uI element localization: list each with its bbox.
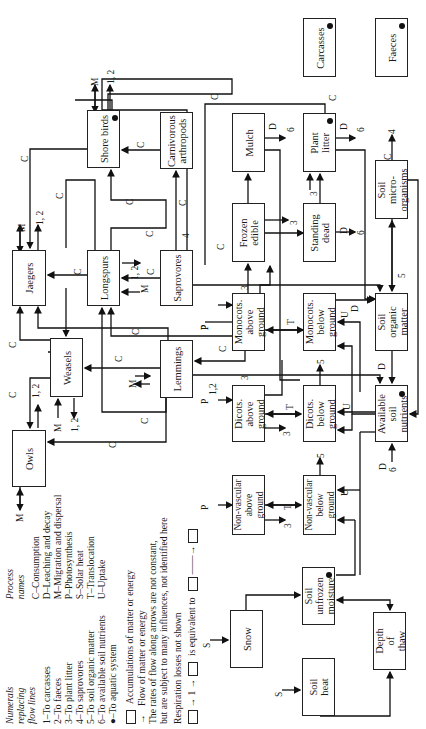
flow-label: C [178, 200, 188, 206]
box-standing-dead: Standing dead [303, 203, 336, 262]
legend-accumulations: Accumulations of matter or energy [124, 570, 135, 704]
legend-process-title: Process names [4, 495, 26, 599]
flow-label: 3 [309, 191, 319, 196]
equiv-arrow-icon: → [186, 698, 197, 708]
flow-label: C [145, 231, 155, 237]
flow-label: D [350, 305, 360, 312]
box-monocots-above-ground: Monocots. above ground [232, 293, 265, 351]
equiv-box-icon [188, 662, 198, 676]
flow-label: 5 [316, 453, 326, 458]
flow-label: 1, 2 [130, 266, 140, 280]
aquatic-dot-icon [399, 391, 405, 397]
flow-label: D [339, 227, 349, 234]
legend-process-p: P–Photosynthesis [63, 495, 74, 599]
flow-label: 3 [289, 220, 299, 225]
flow-label: P [200, 505, 210, 510]
flow-label: 3 [283, 523, 293, 528]
box-carnivorous-arthropods: Carnivorous arthropods [160, 112, 193, 169]
flow-label: C [55, 193, 65, 199]
box-frozen-edible: Frozen edible [232, 203, 265, 262]
aquatic-dot-icon [327, 118, 333, 124]
flow-label: T [286, 319, 296, 325]
flow-label: 1,2 [208, 383, 218, 395]
flow-label: U [342, 403, 352, 410]
box-lemmings: Lemmings [160, 340, 193, 398]
flow-label: C [131, 329, 141, 335]
box-soil-heat: Soil heat [302, 658, 335, 716]
flow-label: 6 [356, 127, 366, 132]
legend-equiv-text: is equivalent to [186, 597, 197, 656]
flow-arrow-icon: → [136, 712, 147, 724]
flow-label: C [108, 442, 118, 448]
aquatic-dot-icon [326, 572, 332, 578]
flow-label: 4 [387, 129, 397, 134]
flow-label: 5 [316, 359, 326, 364]
flow-label: C [210, 94, 220, 100]
flow-label: P [200, 399, 210, 404]
flow-label: M [128, 380, 138, 388]
equiv-box-icon [188, 529, 198, 543]
flow-label: 1, 2 [70, 418, 80, 432]
flow-label: C [218, 346, 228, 352]
box-saprovores: Saprovores [160, 250, 193, 306]
flow-label: 1, 2 [35, 211, 45, 225]
flow-label: C [114, 356, 124, 362]
flow-label: D [268, 123, 278, 130]
equiv-arrow-icon: → [186, 679, 197, 689]
flow-label: T [285, 404, 295, 410]
legend-process-m: M–Migration and dispersal [52, 495, 63, 599]
flow-label: C [216, 244, 226, 250]
flow-label: C [8, 392, 18, 398]
flow-label: 1, 2 [106, 70, 116, 84]
flow-label: C [140, 418, 150, 424]
legend-numeral-6: 6–To available soil nutrients [96, 615, 107, 724]
box-monocots-below-ground: Monocots. below ground [303, 293, 336, 351]
box-nonvascular-below-ground: Non-vascular below ground [303, 475, 336, 535]
box-carcasses: Carcasses [303, 18, 336, 77]
legend-numeral-5: 5–To soil organic matter [85, 615, 96, 724]
box-owls: Owls [12, 430, 46, 487]
equiv-box-icon [188, 577, 198, 591]
flow-label: M [53, 424, 63, 432]
box-weasels: Weasels [50, 338, 83, 397]
flow-label: 3 [240, 285, 250, 290]
flow-label: S [274, 692, 284, 697]
flow-label: D [339, 123, 349, 130]
flow-label: P [200, 325, 210, 330]
legend-numeral-2: 2–To faeces [52, 615, 63, 724]
legend-equiv-mid: 1 [186, 691, 197, 696]
aquatic-dot-icon [112, 115, 118, 121]
flow-label: C [73, 269, 83, 275]
flow-label: U [340, 311, 350, 318]
flow-label: C [383, 154, 393, 160]
box-jaegers: Jaegers [12, 250, 46, 306]
flow-label: 3 [240, 375, 250, 380]
flow-label: C [136, 142, 146, 148]
accumulation-box-icon [126, 710, 136, 724]
legend-numeral-3: 3–To plant litter [63, 615, 74, 724]
flow-label: 6 [286, 127, 296, 132]
box-available-soil-nutrients: Available soil nutrients [375, 385, 408, 442]
flow-label: T [283, 504, 293, 510]
legend-rates-note-1: The rates of flow along arrows are not c… [147, 495, 158, 724]
legend-respiration: Respiration losses not shown [172, 495, 183, 724]
legend-process-t: T–Translocation [85, 495, 96, 599]
box-soil-microorganisms: Soil micro- organisms [375, 160, 408, 219]
legend-numerals-title: Numerals replacing flow lines [4, 615, 37, 724]
flow-label: C [328, 95, 338, 101]
flow-label: 6 [388, 467, 398, 472]
aquatic-dot-icon [327, 23, 333, 29]
legend-process-c: C–Consumption [30, 495, 41, 599]
box-mulch: Mulch [232, 113, 265, 172]
legend-process-u: U–Uptake [96, 495, 107, 599]
flow-label: C [8, 342, 18, 348]
box-faeces: Faeces [375, 18, 408, 77]
flow-label: 4 [181, 233, 191, 238]
box-snow: Snow [230, 610, 263, 668]
flow-label: 3 [282, 431, 292, 436]
flow-label: S [202, 643, 212, 648]
legend-process-s: S–Solar heat [74, 495, 85, 599]
legend-numeral-4: 4–To saprovores [74, 615, 85, 724]
flow-label: 6 [356, 230, 366, 235]
flow-label: D [377, 363, 387, 370]
